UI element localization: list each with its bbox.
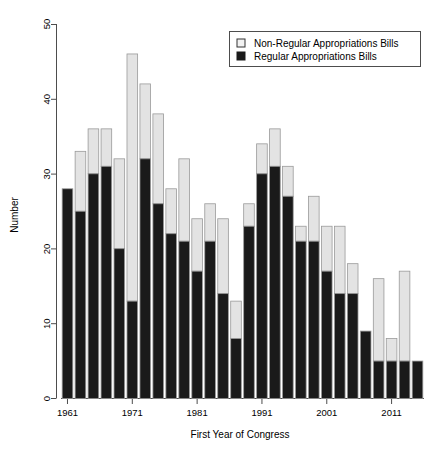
legend-swatch-non-regular-icon [237,39,245,47]
bar-2009 [373,279,384,399]
bar-segment-non-regular [205,204,216,241]
bar-segment-regular [75,211,86,398]
bar-segment-regular [62,189,73,399]
bar-2001 [321,226,332,398]
bar-1987 [231,301,242,398]
legend-label-regular: Regular Appropriations Bills [254,51,377,62]
bar-1983 [205,204,216,399]
legend-label-non-regular: Non-Regular Appropriations Bills [254,38,399,49]
bar-1977 [166,189,177,399]
y-tick-label-50: 50 [41,19,52,30]
bar-segment-non-regular [192,219,203,271]
bar-1967 [101,129,112,399]
bar-segment-non-regular [153,114,164,204]
bar-segment-regular [114,249,125,399]
bar-segment-regular [360,331,371,398]
x-axis-title: First Year of Congress [191,429,290,440]
appropriations-bills-chart: 50 40 30 20 10 0 Number 1961197119811991… [0,0,433,450]
bar-segment-regular [101,166,112,398]
bar-segment-non-regular [334,226,345,293]
bar-segment-regular [347,294,358,399]
bar-1999 [308,196,319,398]
bar-1963 [75,151,86,398]
x-tick-label-1991: 1991 [251,407,272,418]
bar-segment-regular [296,241,307,398]
bar-2015 [412,361,423,398]
bar-segment-regular [179,241,190,398]
bar-2003 [334,226,345,398]
bar-1989 [244,204,255,399]
bar-segment-regular [218,294,229,399]
bar-1965 [88,129,99,399]
bar-2005 [347,264,358,399]
bar-segment-regular [373,361,384,398]
bar-1971 [127,54,138,399]
bar-1993 [270,129,281,399]
bar-segment-regular [166,234,177,399]
bar-segment-regular [257,174,268,399]
bar-segment-non-regular [140,84,151,159]
bar-1991 [257,144,268,399]
x-axis: 196119711981199120012011 First Year of C… [57,399,424,441]
bar-segment-non-regular [244,204,255,226]
x-tick-label-2011: 2011 [381,407,401,418]
bar-segment-regular [283,196,294,398]
bar-segment-regular [244,226,255,398]
bar-1973 [140,84,151,399]
y-tick-label-40: 40 [41,94,52,105]
chart-canvas: 50 40 30 20 10 0 Number 1961197119811991… [0,0,433,450]
bar-segment-non-regular [296,226,307,241]
y-axis-title: Number [9,197,20,233]
y-tick-label-10: 10 [41,318,52,329]
bar-segment-non-regular [386,339,397,361]
bar-1975 [153,114,164,399]
bar-segment-regular [192,271,203,398]
bar-1995 [283,166,294,398]
bar-segment-regular [334,294,345,399]
y-tick-label-0: 0 [41,396,52,401]
bar-segment-non-regular [308,196,319,241]
bar-segment-non-regular [257,144,268,174]
bar-1979 [179,159,190,399]
bar-segment-non-regular [283,166,294,196]
bar-2007 [360,331,371,398]
bar-segment-regular [140,159,151,399]
bar-segment-non-regular [179,159,190,241]
bar-1961 [62,189,73,399]
bar-2011 [386,339,397,399]
bar-segment-non-regular [166,189,177,234]
x-tick-label-1981: 1981 [187,407,208,418]
bar-segment-regular [88,174,99,399]
bar-segment-non-regular [127,54,138,301]
y-tick-label-30: 30 [41,169,52,180]
bar-1981 [192,219,203,399]
bar-segment-non-regular [88,129,99,174]
bar-segment-regular [205,241,216,398]
bar-segment-regular [399,361,410,398]
bar-segment-non-regular [321,226,332,271]
y-tick-label-20: 20 [41,244,52,255]
bar-segment-non-regular [75,151,86,211]
bar-segment-non-regular [101,129,112,166]
bar-segment-regular [153,204,164,399]
bar-segment-non-regular [270,129,281,166]
bar-group [62,54,423,399]
bar-segment-regular [231,339,242,399]
legend-swatch-regular-icon [237,52,245,60]
bar-segment-regular [386,361,397,398]
bar-segment-regular [270,166,281,398]
x-tick-group: 196119711981199120012011 [57,399,402,419]
x-tick-label-1971: 1971 [122,407,143,418]
x-tick-label-2001: 2001 [316,407,337,418]
bar-segment-non-regular [347,264,358,294]
bar-segment-non-regular [399,271,410,361]
bar-segment-non-regular [231,301,242,338]
x-tick-label-1961: 1961 [57,407,78,418]
bar-segment-regular [127,301,138,398]
bar-1969 [114,159,125,399]
bar-2013 [399,271,410,398]
bar-segment-non-regular [218,219,229,294]
bar-1985 [218,219,229,399]
bar-segment-regular [308,241,319,398]
bar-segment-regular [321,271,332,398]
